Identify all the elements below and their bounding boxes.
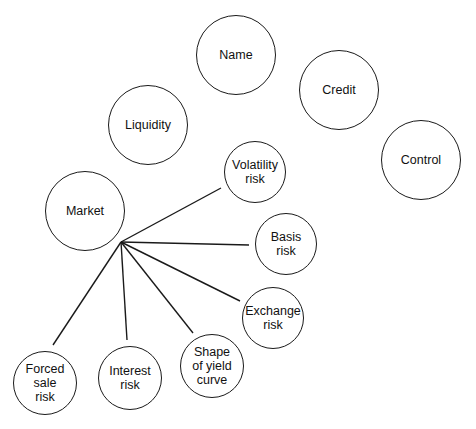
- node-market-label: Market: [66, 204, 104, 218]
- connector-line-exchange-risk: [121, 242, 240, 301]
- node-name-label: Name: [219, 48, 252, 62]
- node-shape-of-yield-curve: Shape of yield curve: [180, 334, 244, 398]
- node-market: Market: [45, 171, 125, 251]
- node-basis-risk: Basis risk: [255, 213, 317, 275]
- node-liquidity-label: Liquidity: [125, 118, 171, 132]
- node-basis-risk-label: Basis risk: [271, 230, 302, 258]
- node-liquidity: Liquidity: [108, 85, 188, 165]
- node-interest-risk: Interest risk: [98, 346, 162, 410]
- node-credit-label: Credit: [322, 83, 355, 97]
- node-shape-of-yield-curve-label: Shape of yield curve: [192, 345, 232, 387]
- node-credit: Credit: [299, 50, 379, 130]
- node-forced-sale-risk-label: Forced sale risk: [26, 362, 65, 404]
- node-volatility-risk-label: Volatility risk: [232, 158, 278, 186]
- node-exchange-risk-label: Exchange risk: [245, 304, 301, 332]
- node-control: Control: [381, 120, 461, 200]
- node-interest-risk-label: Interest risk: [109, 364, 151, 392]
- node-control-label: Control: [401, 153, 441, 167]
- connector-line-interest-risk: [121, 242, 127, 340]
- node-volatility-risk: Volatility risk: [224, 141, 286, 203]
- node-forced-sale-risk: Forced sale risk: [13, 351, 77, 415]
- connector-line-forced-sale-risk: [53, 242, 121, 345]
- connector-line-basis-risk: [121, 242, 249, 245]
- node-exchange-risk: Exchange risk: [242, 287, 304, 349]
- connector-line-shape-of-yield-curve: [121, 242, 193, 333]
- risk-taxonomy-diagram: Name Credit Liquidity Control Market Vol…: [0, 0, 476, 429]
- node-name: Name: [196, 15, 276, 95]
- connector-line-volatility-risk: [121, 188, 221, 242]
